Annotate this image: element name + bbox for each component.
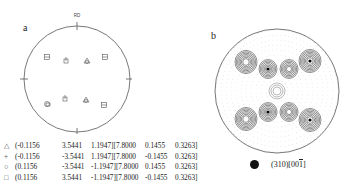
grid-dot (269, 136, 270, 137)
grid-dot (300, 34, 301, 35)
grid-dot (325, 75, 326, 76)
grid-dot (336, 106, 337, 107)
grid-dot (217, 79, 218, 80)
grid-dot (296, 33, 297, 34)
grid-dot (231, 114, 232, 115)
grid-dot (251, 93, 252, 94)
grid-dot (287, 95, 288, 96)
grid-dot (300, 40, 301, 41)
grid-dot (241, 89, 242, 90)
orientation-value: 3.5441 (62, 141, 82, 152)
grid-dot (330, 106, 331, 107)
grid-dot (305, 79, 306, 80)
grid-dot (241, 85, 242, 86)
grid-dot (257, 38, 258, 39)
grid-dot (257, 132, 258, 133)
grid-dot (289, 130, 290, 131)
grid-dot (289, 57, 290, 58)
grid-dot (303, 91, 304, 92)
grid-dot (226, 87, 227, 88)
grid-dot (216, 95, 217, 96)
grid-dot (266, 125, 267, 126)
grid-dot (317, 99, 318, 100)
grid-dot (247, 49, 248, 50)
orientation-value: 0.3263] (175, 173, 198, 184)
grid-dot (266, 89, 267, 90)
grid-dot (269, 50, 270, 51)
grid-dot (281, 35, 282, 36)
grid-dot (241, 93, 242, 94)
grid-dot (309, 106, 310, 107)
grid-dot (300, 142, 301, 143)
grid-dot (231, 95, 232, 96)
grid-dot (241, 97, 242, 98)
grid-dot (218, 75, 219, 76)
grid-dot (274, 122, 275, 123)
grid-dot (307, 38, 308, 39)
grid-dot (230, 60, 231, 61)
grid-dot (265, 130, 266, 131)
grid-dot (299, 69, 300, 70)
grid-dot (265, 51, 266, 52)
grid-dot (270, 82, 271, 83)
grid-dot (329, 71, 330, 72)
grid-dot (327, 83, 328, 84)
grid-dot (332, 83, 333, 84)
grid-dot (270, 126, 271, 127)
grid-dot (253, 142, 254, 143)
grid-dot (257, 148, 258, 149)
grid-dot (322, 87, 323, 88)
orientation-symbol: □ (4, 173, 12, 184)
grid-dot (232, 79, 233, 80)
grid-dot (314, 42, 315, 43)
grid-dot (322, 99, 323, 100)
grid-dot (216, 99, 217, 100)
grid-dot (321, 57, 322, 58)
grid-dot (309, 58, 310, 59)
orientation-marker-icon (266, 110, 269, 113)
grid-dot (292, 53, 293, 54)
grid-dot (289, 135, 290, 136)
grid-dot (259, 59, 260, 60)
grid-dot (236, 87, 237, 88)
grid-dot (278, 75, 279, 76)
grid-dot (307, 87, 308, 88)
grid-dot (277, 132, 278, 133)
grid-dot (331, 118, 332, 119)
grid-dot (314, 139, 315, 140)
grid-dot (221, 83, 222, 84)
grid-dot (309, 75, 310, 76)
grid-dot (313, 91, 314, 92)
grid-dot (326, 64, 327, 65)
grid-dot (261, 89, 262, 90)
center-contour (273, 87, 281, 95)
orientation-value: (0.1156 (15, 162, 37, 173)
grid-dot (289, 140, 290, 141)
grid-dot (217, 103, 218, 104)
grid-dot (317, 83, 318, 84)
grid-dot (270, 116, 271, 117)
grid-dot (285, 45, 286, 46)
grid-dot (311, 40, 312, 41)
grid-dot (254, 130, 255, 131)
grid-dot (289, 113, 290, 114)
grid-dot (281, 45, 282, 46)
grid-dot (300, 79, 301, 80)
grid-dot (304, 145, 305, 146)
grid-dot (300, 63, 301, 64)
grid-dot (281, 40, 282, 41)
grid-dot (254, 51, 255, 52)
grid-dot (216, 91, 217, 92)
grid-dot (236, 95, 237, 96)
grid-dot (221, 99, 222, 100)
grid-dot (254, 77, 255, 78)
grid-dot (242, 100, 243, 101)
grid-dot (251, 74, 252, 75)
grid-dot (259, 116, 260, 117)
grid-dot (281, 50, 282, 51)
grid-dot (322, 95, 323, 96)
grid-dot (321, 124, 322, 125)
grid-dot (292, 150, 293, 151)
grid-dot (317, 137, 318, 138)
grid-dot (246, 138, 247, 139)
